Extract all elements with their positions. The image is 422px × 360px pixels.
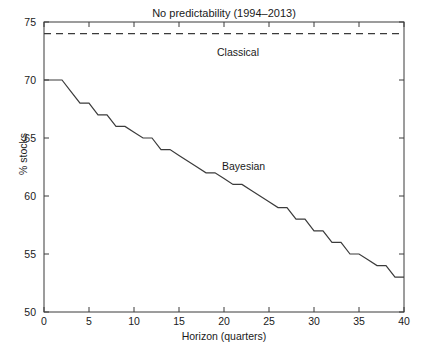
y-axis-label: % stocks [17, 109, 29, 199]
xtick-label-20: 20 [212, 315, 236, 327]
xtick-label-30: 30 [302, 315, 326, 327]
ytick-label-55: 55 [10, 248, 36, 260]
ytick-label-70: 70 [10, 74, 36, 86]
xtick-label-10: 10 [122, 315, 146, 327]
xtick-label-40: 40 [392, 315, 416, 327]
x-axis-label: Horizon (quarters) [44, 330, 404, 342]
ytick-label-75: 75 [10, 16, 36, 28]
series-line-bayesian [44, 80, 404, 277]
xtick-label-15: 15 [167, 315, 191, 327]
chart-figure: No predictability (1994–2013) [0, 0, 422, 360]
xtick-label-0: 0 [32, 315, 56, 327]
series-label-bayesian: Bayesian [222, 160, 265, 172]
xtick-label-25: 25 [257, 315, 281, 327]
series-label-classical: Classical [217, 46, 259, 58]
plot-canvas [0, 0, 422, 360]
xtick-label-5: 5 [77, 315, 101, 327]
xtick-label-35: 35 [347, 315, 371, 327]
